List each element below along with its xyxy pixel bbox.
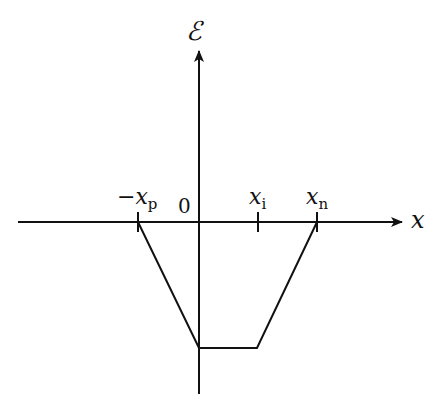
diagram-canvas: ℰ 0 x −xp xi xn [0,0,439,415]
tick-label-xn-base: x [306,184,318,209]
tick-label-xn: xn [306,186,328,208]
tick-label-neg-xp-sub: p [148,195,158,213]
tick-label-neg-xp: −xp [117,186,157,208]
tick-label-xi: xi [249,186,266,208]
field-diagram [0,0,439,415]
field-profile-curve [138,222,317,348]
tick-label-neg-xp-sign: − [117,184,135,209]
tick-label-neg-xp-base: x [135,184,147,209]
e-axis-label: ℰ [186,18,202,44]
tick-label-xn-sub: n [318,195,328,213]
x-axis-label: x [411,208,425,232]
tick-label-xi-base: x [249,184,261,209]
tick-label-xi-sub: i [261,195,266,213]
origin-label: 0 [178,196,191,216]
